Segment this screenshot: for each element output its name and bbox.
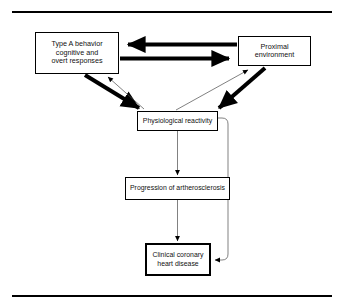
node-proximal-environment: Proximal environment bbox=[238, 36, 311, 66]
node-progression-label: Progression of artherosclerosis bbox=[128, 184, 227, 192]
top-rule bbox=[12, 11, 332, 13]
node-progression-of-artherosclerosis: Progression of artherosclerosis bbox=[125, 177, 230, 200]
node-physiological-label: Physiological reactivity bbox=[141, 117, 214, 125]
node-clinical-label: Clinical coronary heart disease bbox=[151, 251, 206, 267]
edge-type-a-to-physiological bbox=[85, 75, 139, 108]
node-type-a-behavior: Type A behavior cognitive and overt resp… bbox=[35, 32, 119, 74]
node-type-a-label: Type A behavior cognitive and overt resp… bbox=[49, 40, 104, 65]
figure-diagram: Type A behavior cognitive and overt resp… bbox=[0, 0, 343, 308]
node-clinical-coronary-heart-disease: Clinical coronary heart disease bbox=[145, 243, 211, 276]
bottom-rule bbox=[12, 295, 332, 297]
node-proximal-label: Proximal environment bbox=[253, 43, 297, 60]
node-physiological-reactivity: Physiological reactivity bbox=[137, 111, 218, 131]
edge-proximal-to-physiological bbox=[219, 68, 265, 108]
